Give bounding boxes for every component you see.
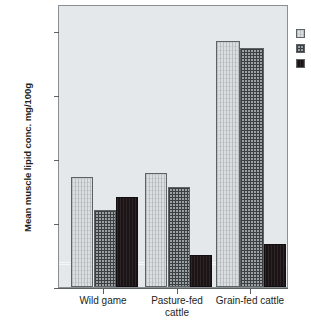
legend-swatch-series-1 <box>296 29 305 38</box>
bar-grain-fed-series-2 <box>240 48 264 287</box>
x-axis-label-pasture-fed-line2: cattle <box>165 307 189 318</box>
bar-wild-game-series-2 <box>94 210 116 287</box>
legend-swatch-series-2 <box>296 44 305 53</box>
x-tick-wild-game <box>103 288 104 294</box>
legend <box>296 26 311 71</box>
bar-pasture-fed-series-2 <box>168 187 190 287</box>
legend-swatch-series-3 <box>296 59 305 68</box>
x-axis-label-pasture-fed-line1: Pasture-fed <box>151 295 203 306</box>
x-axis-line <box>58 288 288 289</box>
x-axis-label-wild-game-line1: Wild game <box>79 295 126 306</box>
x-tick-grain-fed <box>250 288 251 294</box>
bar-grain-fed-series-3 <box>264 244 286 287</box>
x-tick-pasture-fed <box>177 288 178 294</box>
x-axis-label-grain-fed-line1: Grain-fed cattle <box>216 295 284 306</box>
bar-wild-game-series-3 <box>116 197 138 287</box>
bar-grain-fed-series-1 <box>216 41 240 287</box>
bar-pasture-fed-series-3 <box>190 255 212 287</box>
plot-area: 2,000 1,500 1,000 500 0 <box>58 5 288 288</box>
bar-chart-figure: Mean muscle lipid conc. mg/100g 2,000 1,… <box>0 0 311 320</box>
legend-item-series-2 <box>296 41 311 56</box>
legend-item-series-3 <box>296 56 311 71</box>
y-tick-500 <box>54 224 59 225</box>
y-tick-2000 <box>54 32 59 33</box>
bar-pasture-fed-series-1 <box>145 173 167 287</box>
y-tick-1000 <box>54 160 59 161</box>
legend-item-series-1 <box>296 26 311 41</box>
x-axis-label-grain-fed: Grain-fed cattle <box>202 295 298 307</box>
bar-wild-game-series-1 <box>71 177 93 287</box>
y-axis-title: Mean muscle lipid conc. mg/100g <box>22 43 33 273</box>
y-tick-1500 <box>54 96 59 97</box>
